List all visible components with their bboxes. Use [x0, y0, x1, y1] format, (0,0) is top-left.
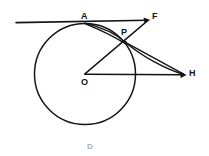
- point-label-a: A: [81, 12, 88, 21]
- arrowhead-h: [180, 72, 186, 78]
- geometry-figure: A F P O H D: [0, 0, 209, 156]
- point-label-h: H: [189, 69, 196, 78]
- figure-canvas: [0, 0, 209, 156]
- segment-o-to-h: [85, 74, 183, 75]
- vertex-dot-o: [84, 73, 86, 75]
- ray-o-to-f: [85, 21, 147, 74]
- vertex-dot-p: [124, 41, 127, 44]
- point-label-o: O: [81, 78, 88, 87]
- point-label-p: P: [121, 28, 127, 37]
- vertex-dot-a: [84, 22, 86, 24]
- segment-p-to-h: [125, 42, 183, 74]
- curve-a-inner-stroke: [86, 24, 125, 43]
- point-label-d: D: [87, 143, 93, 151]
- point-label-f: F: [152, 12, 158, 21]
